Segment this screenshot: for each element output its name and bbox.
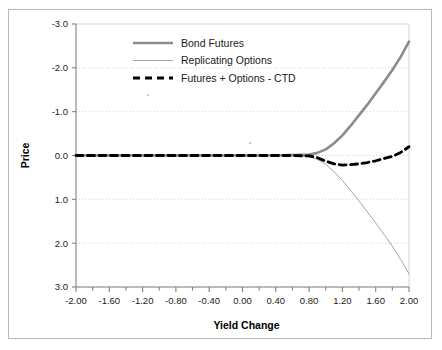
legend: Bond FuturesReplicating OptionsFutures +… [133,37,296,144]
x-tick-label: -2.00 [65,295,87,306]
x-tick-label: 1.20 [333,295,352,306]
y-tick-label: 0.0 [55,150,68,161]
x-tick-label: 0.80 [300,295,319,306]
legend-label: Futures + Options - CTD [181,72,296,84]
y-tick-label: -3.0 [52,18,68,29]
x-tick-label: -0.80 [165,295,187,306]
y-tick-label: 1.0 [55,194,68,205]
x-tick-label: -0.40 [198,295,220,306]
y-tick-label: 3.0 [55,281,68,292]
chart-frame: -3.0-2.0-1.00.01.02.03.0-2.00-1.60-1.20-… [8,9,432,339]
x-tick-label: -1.60 [98,295,120,306]
x-tick-label: 2.00 [400,295,419,306]
scan-speck [147,94,149,96]
x-axis-title: Yield Change [213,319,279,331]
x-tick-label: 0.00 [233,295,252,306]
y-tick-label: -1.0 [52,106,68,117]
y-tick-label: -2.0 [52,62,68,73]
x-tick-label: -1.20 [132,295,154,306]
legend-label: Bond Futures [181,37,244,49]
series-line [76,147,409,165]
series-line [76,156,409,274]
legend-label: Replicating Options [181,54,272,66]
x-tick-label: 0.40 [267,295,286,306]
chart-plot: -3.0-2.0-1.00.01.02.03.0-2.00-1.60-1.20-… [9,10,431,338]
scan-speck [249,142,251,144]
x-tick-label: 1.60 [366,295,385,306]
y-axis-title: Price [19,142,31,168]
y-tick-label: 2.0 [55,238,68,249]
